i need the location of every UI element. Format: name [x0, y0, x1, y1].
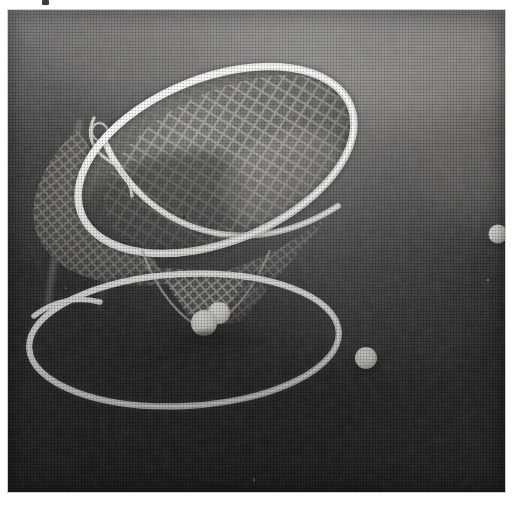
photograph — [8, 10, 505, 492]
film-grain — [8, 10, 505, 492]
page-root: Grainy black and white photograph of a c… — [0, 0, 520, 505]
scan-artifact-mark — [42, 0, 49, 5]
photo-canvas — [8, 10, 505, 492]
